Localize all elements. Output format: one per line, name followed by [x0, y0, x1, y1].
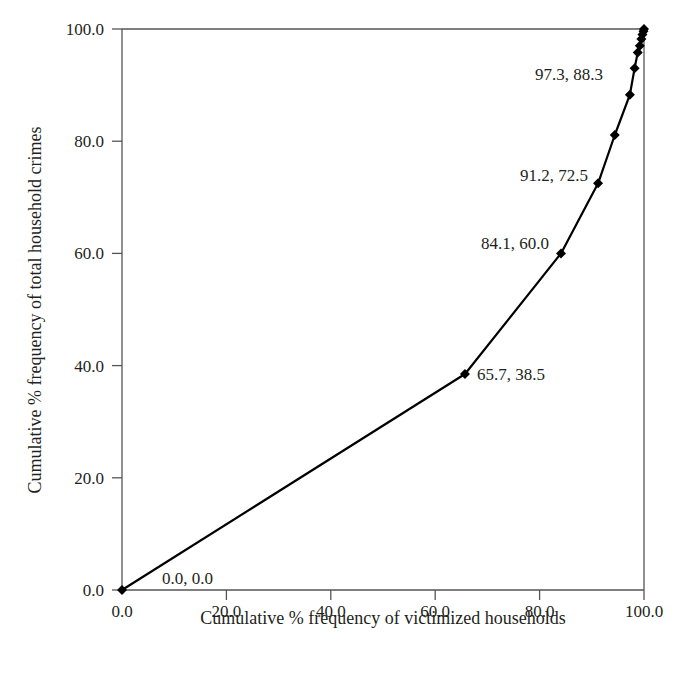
x-axis-title: Cumulative % frequency of victimized hou…	[200, 608, 565, 628]
point-label: 84.1, 60.0	[481, 234, 549, 253]
y-tick-label: 100.0	[66, 20, 104, 39]
lorenz-curve-chart: 0.020.040.060.080.0100.0 0.020.040.060.0…	[0, 0, 687, 676]
series-line	[122, 29, 644, 590]
y-tick-label: 0.0	[83, 581, 104, 600]
diamond-marker	[625, 90, 635, 100]
data-series	[117, 24, 649, 595]
x-tick-label: 100.0	[625, 602, 663, 621]
point-label: 91.2, 72.5	[520, 166, 588, 185]
plot-frame	[122, 29, 644, 590]
diamond-marker	[610, 130, 620, 140]
point-label: 97.3, 88.3	[535, 65, 603, 84]
x-tick-label: 0.0	[111, 602, 132, 621]
y-axis-ticks: 0.020.040.060.080.0100.0	[66, 20, 122, 600]
diamond-marker	[630, 63, 640, 73]
diamond-marker	[593, 178, 603, 188]
y-tick-label: 40.0	[74, 357, 104, 376]
y-tick-label: 60.0	[74, 244, 104, 263]
point-label: 65.7, 38.5	[477, 365, 545, 384]
point-label: 0.0, 0.0	[162, 569, 213, 588]
y-tick-label: 80.0	[74, 132, 104, 151]
point-annotations: 0.0, 0.065.7, 38.584.1, 60.091.2, 72.597…	[162, 65, 603, 588]
y-tick-label: 20.0	[74, 469, 104, 488]
y-axis-title: Cumulative % frequency of total househol…	[25, 127, 45, 494]
